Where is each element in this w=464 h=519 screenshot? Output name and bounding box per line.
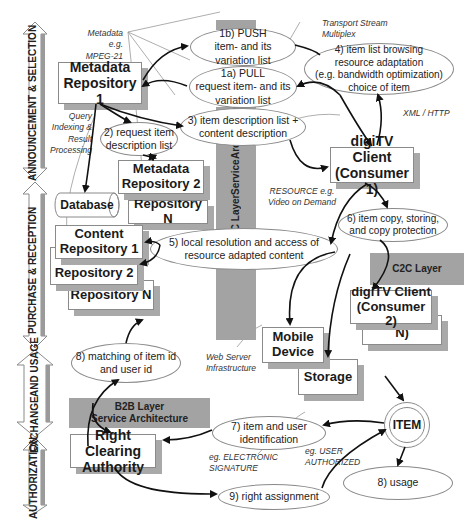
arrow-pull <box>143 81 187 87</box>
arrow-push <box>143 46 187 80</box>
